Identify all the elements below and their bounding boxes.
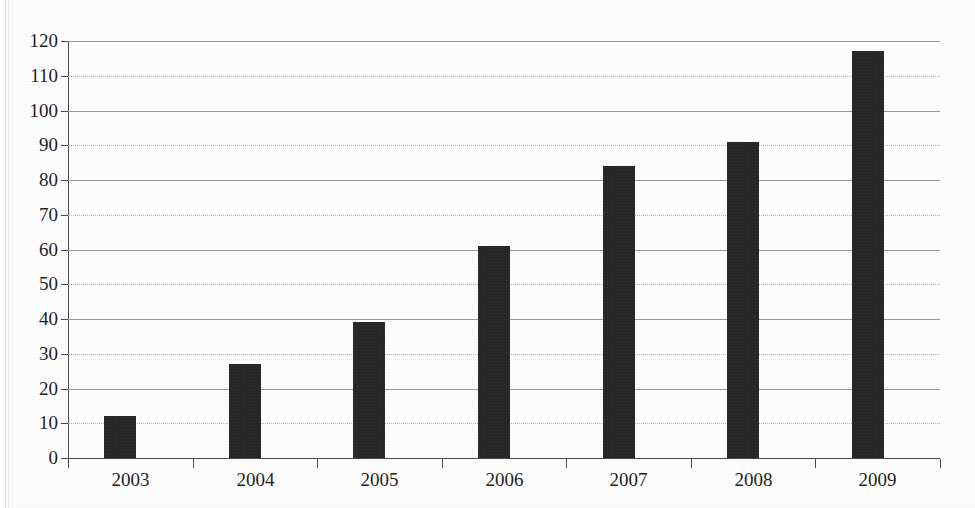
x-axis-tick (317, 459, 318, 468)
bar-2009 (852, 51, 884, 458)
y-axis-tick-label: 60 (4, 240, 58, 259)
plot-area (68, 41, 940, 458)
bar-2008 (727, 142, 759, 458)
gridline (68, 458, 940, 459)
y-axis-tick-label: 50 (4, 274, 58, 293)
x-axis-tick (68, 459, 69, 468)
bar-2003 (104, 416, 136, 458)
bar-2004 (229, 364, 261, 458)
x-axis-tick (940, 459, 941, 468)
y-axis-tick-label: 110 (4, 66, 58, 85)
y-axis-tick-label: 20 (4, 379, 58, 398)
x-axis-tick-label: 2005 (317, 470, 442, 490)
x-axis-tick (442, 459, 443, 468)
x-axis-tick (566, 459, 567, 468)
gridline (68, 145, 940, 146)
x-axis-tick-label: 2008 (691, 470, 816, 490)
gridline (68, 76, 940, 77)
x-axis-tick-label: 2009 (815, 470, 940, 490)
chart-figure: 0102030405060708090100110120 20032004200… (0, 0, 975, 508)
y-axis-tick-label: 30 (4, 344, 58, 363)
bar-2005 (353, 322, 385, 458)
y-axis-tick-label: 10 (4, 413, 58, 432)
x-axis-tick-label: 2006 (442, 470, 567, 490)
x-axis-tick (691, 459, 692, 468)
y-axis-tick-label: 0 (4, 448, 58, 467)
gridline (68, 180, 940, 181)
y-axis-tick-label: 40 (4, 309, 58, 328)
y-axis-tick-label: 100 (4, 101, 58, 120)
y-axis-tick-label: 80 (4, 170, 58, 189)
x-axis-tick (815, 459, 816, 468)
x-axis-tick-label: 2007 (566, 470, 691, 490)
bar-2007 (603, 166, 635, 458)
x-axis-tick-label: 2003 (68, 470, 193, 490)
y-axis-labels: 0102030405060708090100110120 (0, 0, 58, 508)
gridline (68, 215, 940, 216)
y-axis-tick-label: 120 (4, 31, 58, 50)
gridline (68, 41, 940, 42)
x-axis-tick-label: 2004 (193, 470, 318, 490)
bar-2006 (478, 246, 510, 458)
gridline (68, 111, 940, 112)
y-axis-tick-label: 70 (4, 205, 58, 224)
y-axis-tick-label: 90 (4, 135, 58, 154)
bar-chart: 0102030405060708090100110120 20032004200… (0, 0, 975, 508)
x-axis-tick (193, 459, 194, 468)
